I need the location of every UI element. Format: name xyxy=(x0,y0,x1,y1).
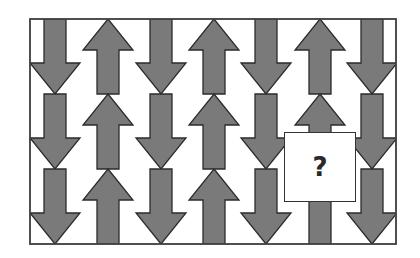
question-mark: ? xyxy=(312,152,327,182)
missing-piece-box[interactable]: ? xyxy=(284,132,356,202)
arrow-pattern-puzzle xyxy=(0,0,420,258)
